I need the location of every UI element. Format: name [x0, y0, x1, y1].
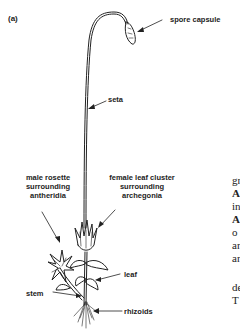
moss-plant-drawing: [0, 0, 240, 329]
body-text-line: de: [232, 281, 240, 294]
label-female-leaf-cluster: female leaf cluster surrounding archegon…: [94, 173, 190, 200]
body-text-line: gr: [232, 174, 240, 187]
label-rhizoids: rhizoids: [124, 307, 153, 316]
spore-capsule-shape: [125, 22, 135, 44]
body-text-line: in: [232, 200, 240, 213]
body-text-line: ar: [232, 239, 240, 252]
label-male-rosette: male rosette surrounding antheridia: [8, 173, 88, 200]
body-text-line: A: [232, 187, 240, 200]
label-spore-capsule: spore capsule: [170, 15, 220, 24]
body-text-line: ar: [232, 252, 240, 265]
label-leaf: leaf: [124, 270, 137, 279]
rhizoids-lines: [74, 302, 97, 328]
body-text-line: T: [232, 294, 239, 307]
body-text-line: A: [232, 213, 240, 226]
label-seta: seta: [108, 95, 123, 104]
body-text-line: o: [232, 226, 238, 239]
male-rosette-shape: [48, 250, 74, 282]
leaf-shape: [86, 279, 98, 290]
label-stem: stem: [26, 289, 44, 298]
label-arrows: [42, 20, 162, 311]
panel-label: (a): [8, 14, 18, 23]
